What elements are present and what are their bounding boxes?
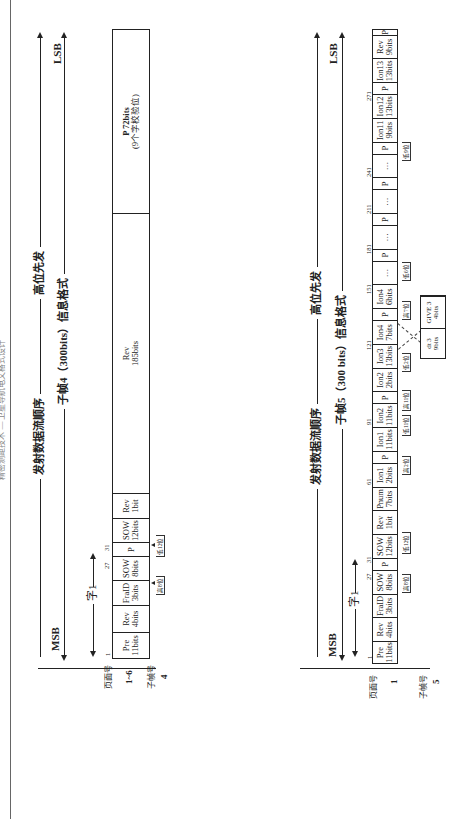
field-parity: P — [373, 558, 397, 570]
subframe5-field-row: Pre11bits Rev4bits FraID3bits SOW8bits P… — [372, 29, 398, 664]
stream-arrow-head-icon — [37, 32, 43, 38]
stream-order-arrow-line — [40, 37, 41, 657]
annotation-ion4-high7: 高7位 — [402, 301, 411, 320]
lsb-label: LSB — [52, 43, 63, 64]
tick-27: 27 — [103, 563, 110, 570]
field-rev-9: Rev9bits — [373, 35, 397, 59]
annotation-ion2-high11: 高11位 — [402, 390, 411, 411]
word1-arrow-line-right — [93, 557, 94, 587]
field-parity: P — [373, 177, 397, 189]
field-ion1-high: Ion12bits — [373, 463, 397, 487]
annotation-ion11-low9: 低9位 — [402, 142, 411, 161]
annotation-sow-high8: 高8位 — [156, 576, 165, 595]
field-pre: Pre11bits — [373, 641, 397, 663]
word1-arrow-left-icon — [90, 651, 96, 657]
field-sow-high: SOW8bits — [373, 570, 397, 594]
tick-1: 1 — [104, 653, 111, 656]
ion3-detail-box: dt 39bits GIVE 34bits — [420, 295, 446, 359]
annotation-sow-low12: 低12位 — [402, 533, 411, 555]
subframe-number: 5 — [432, 680, 441, 685]
msb-boundary-line — [38, 668, 156, 669]
subframe4-field-row: Pre11bits Rev4bits FraID3bits SOW8bits P… — [112, 29, 150, 659]
annotation-sow-high8: 高8位 — [402, 574, 411, 593]
field-give3: GIVE 34bits — [421, 296, 445, 328]
field-ellipsis: … — [373, 189, 397, 213]
stream-order-label: 发射数据流顺序 — [311, 404, 322, 489]
word1-arrow-right-icon — [90, 553, 96, 559]
word1-arrow-right-icon — [352, 559, 358, 565]
tick-181: 181 — [365, 244, 372, 254]
field-ion2-high: Ion211bits — [373, 403, 397, 427]
msb-label: MSB — [50, 627, 61, 651]
col-subframe-header: 子帧号 — [148, 665, 156, 689]
field-sow-high: SOW8bits — [113, 556, 149, 580]
field-ion2-low: Ion22bits — [373, 368, 397, 392]
tick-61: 61 — [365, 479, 372, 486]
word1-arrow-line-right — [355, 563, 356, 593]
tick-271: 271 — [365, 91, 372, 101]
lsb-label: LSB — [328, 43, 339, 64]
tick-211: 211 — [365, 204, 372, 214]
tick-27: 27 — [365, 574, 372, 581]
msb-first-label: 高位先发 — [34, 247, 45, 299]
header-rule — [10, 0, 11, 819]
field-rev-1bit: Rev1bit — [373, 510, 397, 534]
field-parity: P — [373, 82, 397, 94]
field-parity: P — [373, 391, 397, 403]
field-rev-185: Rev185bits — [113, 213, 149, 493]
annotation-ion2-low2: 低2位 — [402, 353, 411, 372]
tick-121: 121 — [365, 340, 372, 350]
stream-order-arrow-line — [317, 37, 318, 657]
rotated-page: 精密测距技术 — 卫星导航电文格式设计 发射数据流顺序 高位先发 子帧4（300… — [0, 0, 469, 819]
annotation-arrow-icon — [151, 581, 155, 585]
annotation-arrow-icon — [151, 543, 155, 547]
field-ellipsis: … — [373, 261, 397, 285]
field-ion11: Ion119bits — [373, 118, 397, 142]
field-parity: P — [373, 451, 397, 463]
field-parity: P — [373, 142, 397, 154]
annotation-ion4-low6: 低6位 — [402, 262, 411, 281]
page-number: 1 — [390, 680, 399, 685]
field-parity: P — [373, 213, 397, 225]
tick-91: 91 — [365, 419, 372, 426]
tick-31: 31 — [103, 545, 110, 552]
annotation-ion1-low11: 低11位 — [402, 415, 411, 436]
word1-arrow-line-left — [93, 604, 94, 654]
field-ellipsis: … — [373, 225, 397, 249]
msb-boundary-line — [300, 668, 430, 669]
field-ion3: Ion313bits — [373, 344, 397, 368]
field-pnum: Pnum7bits — [373, 487, 397, 511]
col-page-header: 页面号 — [105, 665, 113, 689]
field-ion1-low: Ion111bits — [373, 427, 397, 451]
frame-arrow-left-icon — [61, 655, 67, 661]
field-rev: Rev4bits — [373, 617, 397, 641]
page-number: 1~6 — [125, 670, 134, 684]
stream-arrow-head-icon — [314, 32, 320, 38]
msb-label: MSB — [327, 633, 338, 657]
frame-arrow-left-icon — [339, 655, 345, 661]
stream-order-label: 发射数据流顺序 — [34, 394, 45, 479]
field-sow-low: SOW12bits — [373, 534, 397, 558]
running-title: 精密测距技术 — 卫星导航电文格式设计 — [0, 0, 6, 819]
field-parity: P — [373, 30, 397, 35]
frame-format-label: 子帧5（300 bits）信息格式 — [336, 291, 347, 429]
field-parity: P — [373, 308, 397, 320]
frame-arrow-right-icon — [61, 32, 67, 38]
field-rev: Rev4bits — [113, 605, 149, 632]
tick-241: 241 — [365, 167, 372, 177]
field-parity: P — [113, 542, 149, 556]
field-parity-72: P 72bits(9个字校验位) — [113, 30, 149, 213]
field-ion4-low: Ion46bits — [373, 284, 397, 308]
tick-31: 31 — [365, 557, 372, 564]
word1-arrow-left-icon — [352, 651, 358, 657]
tick-151: 151 — [365, 284, 372, 294]
field-sow-low: SOW12bits — [113, 518, 149, 542]
word1-arrow-line-left — [355, 609, 356, 654]
field-fraid: FraID3bits — [113, 580, 149, 605]
field-ion12: Ion1213bits — [373, 94, 397, 118]
field-ellipsis: … — [373, 154, 397, 178]
field-rev-1bit: Rev1bit — [113, 493, 149, 518]
field-ion13: Ion1313bits — [373, 58, 397, 82]
field-pre: Pre11bits — [113, 632, 149, 658]
field-dt3: dt 39bits — [421, 328, 445, 358]
